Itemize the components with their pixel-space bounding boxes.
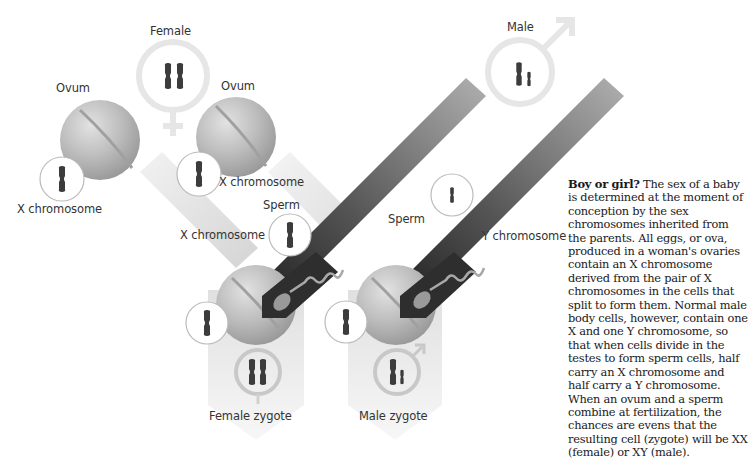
label-female-zygote: Female zygote (209, 409, 292, 423)
label-male: Male (507, 20, 534, 34)
venus-symbol-icon (139, 42, 207, 136)
caption-body: The sex of a baby is determined at the m… (568, 177, 748, 458)
label-ovum-left: Ovum (56, 81, 90, 95)
label-ovum-right: Ovum (221, 79, 255, 93)
label-x-chromosome-ovum-left: X chromosome (17, 202, 102, 216)
fertilizing-ovum-left-x-chromosome (186, 302, 228, 344)
sperm-y-chromosome (431, 174, 473, 216)
ovum-right-x-chromosome (177, 152, 221, 196)
label-sperm-right: Sperm (388, 212, 425, 226)
caption: Boy or girl? The sex of a baby is determ… (568, 178, 748, 458)
label-male-zygote: Male zygote (359, 409, 428, 423)
sperm-x-chromosome (269, 214, 311, 256)
label-x-chromosome-ovum-right: X chromosome (219, 175, 304, 189)
label-y-chromosome-sperm: Y chromosome (482, 229, 566, 243)
label-sperm-left: Sperm (263, 198, 300, 212)
label-female: Female (150, 24, 191, 38)
ovum-left-x-chromosome (40, 157, 84, 201)
fertilizing-ovum-right-x-chromosome (325, 301, 367, 343)
label-x-chromosome-sperm: X chromosome (180, 228, 265, 242)
caption-heading: Boy or girl? (568, 177, 640, 191)
